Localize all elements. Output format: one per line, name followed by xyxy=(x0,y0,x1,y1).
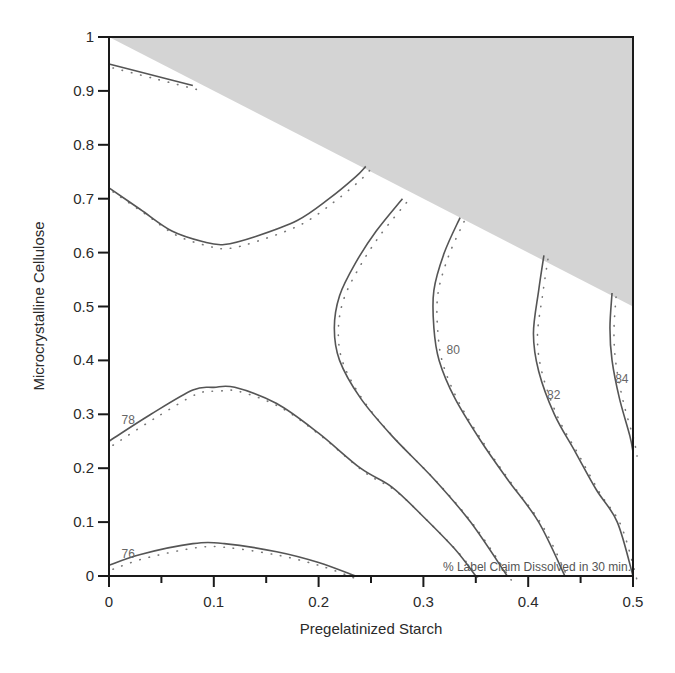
contour-dotted-line xyxy=(113,390,480,580)
annotation-text: % Label Claim Dissolved in 30 min. xyxy=(443,560,631,574)
contour-line-80 xyxy=(433,218,565,576)
contour-chart: 7678808284 00.10.20.30.40.5 00.10.20.30.… xyxy=(0,0,675,673)
y-tick-label: 0.4 xyxy=(73,351,94,368)
x-axis-ticks: 00.10.20.30.40.5 xyxy=(105,576,644,610)
y-tick-label: 0.1 xyxy=(73,513,94,530)
x-tick-label: 0.5 xyxy=(623,593,644,610)
contour-label-80: 80 xyxy=(446,343,460,357)
contour-label-76: 76 xyxy=(122,547,136,561)
x-tick-label: 0.1 xyxy=(203,593,224,610)
y-tick-label: 0.7 xyxy=(73,190,94,207)
contour-label-82: 82 xyxy=(547,388,561,402)
contour-line-78 xyxy=(109,166,366,244)
y-tick-label: 0.5 xyxy=(73,298,94,315)
y-tick-label: 0.3 xyxy=(73,405,94,422)
y-axis-ticks: 00.10.20.30.40.50.60.70.80.91 xyxy=(73,28,109,584)
x-tick-label: 0.4 xyxy=(518,593,539,610)
x-tick-label: 0 xyxy=(105,593,113,610)
shaded-region xyxy=(109,37,633,307)
contour-dotted-line xyxy=(113,170,370,248)
x-axis-title: Pregelatinized Starch xyxy=(300,620,443,637)
contour-line-82 xyxy=(533,255,633,576)
y-tick-label: 1 xyxy=(86,28,94,45)
y-tick-label: 0.6 xyxy=(73,244,94,261)
contour-label-84: 84 xyxy=(615,372,629,386)
infeasible-region xyxy=(109,37,633,307)
contour-dotted-line xyxy=(338,203,511,580)
y-tick-label: 0.8 xyxy=(73,136,94,153)
y-tick-label: 0 xyxy=(86,567,94,584)
contour-line-76 xyxy=(109,542,355,576)
contour-labels: 7678808284 xyxy=(122,343,629,562)
y-tick-label: 0.9 xyxy=(73,82,94,99)
y-tick-label: 0.2 xyxy=(73,459,94,476)
contour-line-79 xyxy=(334,199,507,576)
contour-dotted-line xyxy=(537,259,637,580)
contour-label-78: 78 xyxy=(122,413,136,427)
y-axis-title: Microcrystalline Cellulose xyxy=(30,221,47,390)
x-tick-label: 0.3 xyxy=(413,593,434,610)
x-tick-label: 0.2 xyxy=(308,593,329,610)
